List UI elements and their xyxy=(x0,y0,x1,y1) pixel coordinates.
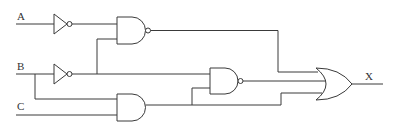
nand-gate-2-icon xyxy=(210,68,243,94)
not-gate-b-icon xyxy=(54,64,72,84)
or-gate-icon xyxy=(316,68,352,100)
input-label-c: C xyxy=(17,100,24,112)
nand-gate-1-icon xyxy=(117,17,151,44)
logic-circuit-diagram: A B C X xyxy=(0,0,400,126)
input-label-b: B xyxy=(17,60,24,72)
not-gate-a-icon xyxy=(54,14,72,34)
input-label-a: A xyxy=(17,10,25,22)
not-b-output-wire xyxy=(72,39,210,74)
input-b-wire xyxy=(16,74,117,99)
nand1-output-wire xyxy=(151,31,319,73)
and-gate-icon xyxy=(117,94,146,121)
output-label-x: X xyxy=(365,70,373,82)
